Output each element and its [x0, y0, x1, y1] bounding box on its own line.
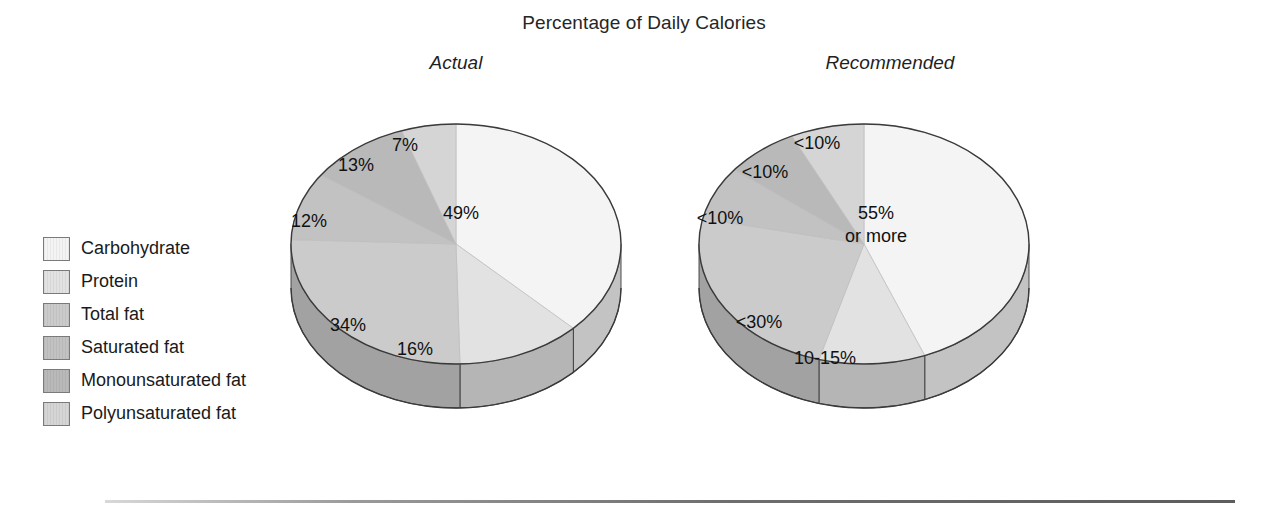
- legend-item: Saturated fat: [43, 331, 246, 364]
- legend-item-label: Total fat: [81, 304, 144, 325]
- page-title: Percentage of Daily Calories: [0, 12, 1288, 34]
- pie-slice-label-protein: 16%: [397, 339, 433, 359]
- legend-item-label: Saturated fat: [81, 337, 184, 358]
- legend-swatch-icon: [43, 402, 70, 426]
- legend-item: Polyunsaturated fat: [43, 397, 246, 430]
- pie-svg: 55%or more10-15%<30%<10%<10%<10%: [694, 92, 1034, 437]
- pie-chart-recommended: 55%or more10-15%<30%<10%<10%<10%: [694, 92, 1034, 437]
- legend-item-label: Protein: [81, 271, 138, 292]
- legend-swatch-icon: [43, 270, 70, 294]
- chart-root: Percentage of Daily Calories Actual Reco…: [0, 0, 1288, 507]
- panel-title-actual: Actual: [306, 52, 606, 74]
- pie-chart-actual: 49%16%34%12%13%7%: [286, 92, 626, 437]
- pie-slice-label-total-fat: 34%: [330, 315, 366, 335]
- legend-swatch-icon: [43, 369, 70, 393]
- legend-item-label: Monounsaturated fat: [81, 370, 246, 391]
- pie-slice-label-polyunsaturated-fat: 7%: [392, 135, 418, 155]
- panel-title-recommended: Recommended: [740, 52, 1040, 74]
- pie-svg: 49%16%34%12%13%7%: [286, 92, 626, 437]
- pie-slice-label-monounsaturated-fat: 13%: [338, 155, 374, 175]
- pie-slice-label-monounsaturated-fat: <10%: [742, 162, 789, 182]
- pie-slice-label-saturated-fat: <10%: [697, 208, 744, 228]
- legend-item: Total fat: [43, 298, 246, 331]
- legend-item: Carbohydrate: [43, 232, 246, 265]
- pie-slice-label-saturated-fat: 12%: [291, 211, 327, 231]
- pie-slice-label-protein: 10-15%: [794, 348, 856, 368]
- legend-item: Monounsaturated fat: [43, 364, 246, 397]
- legend-swatch-icon: [43, 237, 70, 261]
- legend: CarbohydrateProteinTotal fatSaturated fa…: [43, 232, 246, 430]
- legend-swatch-icon: [43, 336, 70, 360]
- legend-item-label: Polyunsaturated fat: [81, 403, 236, 424]
- legend-swatch-icon: [43, 303, 70, 327]
- legend-item-label: Carbohydrate: [81, 238, 190, 259]
- bottom-divider: [105, 500, 1235, 503]
- pie-slice-label-total-fat: <30%: [736, 312, 783, 332]
- pie-slice-label-carbohydrate: 49%: [443, 203, 479, 223]
- pie-slice-label-polyunsaturated-fat: <10%: [794, 133, 841, 153]
- legend-item: Protein: [43, 265, 246, 298]
